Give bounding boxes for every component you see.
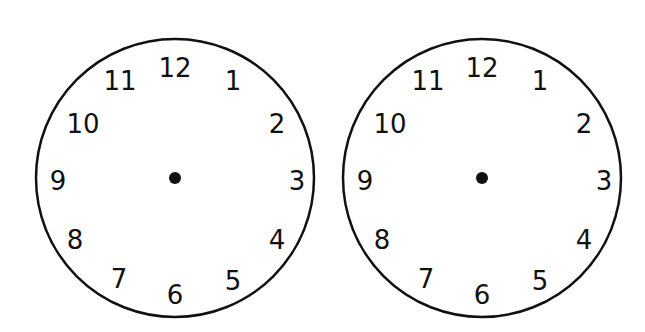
numeral-11: 11	[411, 66, 444, 96]
numeral-4: 4	[269, 225, 286, 255]
numeral-2: 2	[269, 109, 286, 139]
numeral-1: 1	[532, 66, 549, 96]
numeral-10: 10	[373, 109, 406, 139]
numeral-2: 2	[576, 109, 593, 139]
clock-face-right: 12 1 2 3 4 5 6 7 8 9 10 11	[343, 39, 621, 317]
numeral-3: 3	[289, 166, 306, 196]
numeral-8: 8	[67, 225, 84, 255]
numeral-8: 8	[374, 225, 391, 255]
numeral-7: 7	[111, 264, 128, 294]
numeral-4: 4	[576, 225, 593, 255]
numeral-6: 6	[167, 280, 184, 310]
numeral-5: 5	[225, 266, 242, 296]
clock-face-left: 12 1 2 3 4 5 6 7 8 9 10 11	[36, 39, 314, 317]
numeral-1: 1	[225, 66, 242, 96]
numeral-11: 11	[103, 66, 136, 96]
numeral-12: 12	[465, 53, 498, 83]
numeral-12: 12	[158, 53, 191, 83]
numeral-5: 5	[532, 266, 549, 296]
numeral-10: 10	[66, 109, 99, 139]
center-dot-right	[476, 172, 488, 184]
numeral-6: 6	[474, 280, 491, 310]
center-dot-left	[169, 172, 181, 184]
numeral-9: 9	[50, 166, 67, 196]
clock-worksheet: 12 1 2 3 4 5 6 7 8 9 10 11 12 1 2 3 4 5 …	[0, 0, 645, 332]
numeral-7: 7	[418, 264, 435, 294]
numeral-9: 9	[357, 166, 374, 196]
numeral-3: 3	[596, 166, 613, 196]
